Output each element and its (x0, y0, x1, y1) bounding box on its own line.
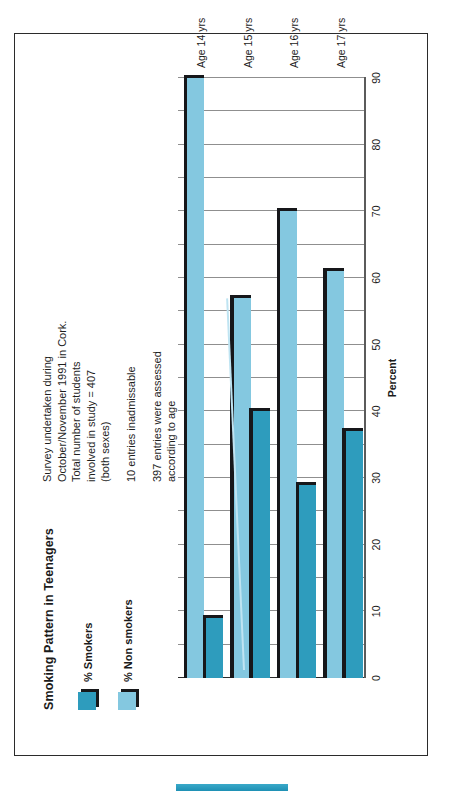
legend-label-smokers: % Smokers (82, 622, 94, 681)
legend-label-non-smokers: % Non smokers (122, 599, 134, 682)
note-paragraph: 397 entries were assessedaccording to ag… (150, 72, 179, 482)
bar-top-edge (277, 211, 281, 678)
note-line: Survey undertaken during (40, 72, 55, 482)
plot-area: Percent 0102030405060708090 (178, 50, 392, 740)
bar-end-edge (342, 428, 363, 431)
legend-swatch-smokers (78, 691, 97, 710)
bar-non-smokers (187, 78, 204, 678)
category-label: Age 15 yrs (242, 17, 254, 67)
bar-end-edge (249, 408, 270, 411)
bar-smokers (299, 484, 316, 677)
note-paragraph: Survey undertaken duringOctober/November… (40, 72, 113, 482)
plot-grid (178, 78, 364, 678)
bar-top-edge (184, 78, 188, 678)
bar-fill (280, 211, 297, 678)
bar-non-smokers (280, 211, 297, 678)
x-tick-label: 30 (370, 472, 382, 484)
x-tick-label: 10 (370, 605, 382, 617)
bar-end-edge (277, 208, 298, 211)
note-line: (both sexes) (98, 72, 113, 482)
x-tick-label: 80 (370, 138, 382, 150)
bar-fill (346, 431, 363, 678)
axis-baseline (364, 77, 366, 678)
note-paragraph: 10 entries inadmissable (124, 72, 139, 482)
note-line: involved in study = 407 (84, 72, 99, 482)
bar-smokers (346, 431, 363, 678)
bar-end-edge (203, 615, 224, 618)
note-line: 397 entries were assessed (150, 72, 165, 482)
x-tick-label: 50 (370, 338, 382, 350)
legend-item-smokers: % Smokers (78, 622, 97, 709)
category-label: Age 16 yrs (288, 17, 300, 67)
legend-swatch-non-smokers (118, 691, 137, 710)
note-line: Total number of students (69, 72, 84, 482)
x-tick-label: 70 (370, 205, 382, 217)
bar-end-edge (323, 268, 344, 271)
figure-title: Smoking Pattern in Teenagers (42, 528, 56, 710)
bar-fill (206, 618, 223, 678)
footer-accent-bar (176, 784, 288, 791)
x-tick-label: 60 (370, 272, 382, 284)
bar-top-edge (342, 431, 346, 678)
bar-end-edge (296, 481, 317, 484)
bar-fill (299, 484, 316, 677)
bar-fill (327, 271, 344, 678)
bar-group (318, 78, 365, 678)
x-tick-label: 90 (370, 72, 382, 84)
axis-title-percent: Percent (386, 78, 398, 678)
bar-top-edge (230, 298, 234, 678)
bar-fill (187, 78, 204, 678)
note-line: October/November 1991 in Cork. (55, 72, 70, 482)
rotated-figure-stage: Smoking Pattern in Teenagers % Smokers %… (26, 50, 416, 740)
bar-group (271, 78, 318, 678)
x-tick-label: 0 (370, 675, 382, 681)
figure-frame: Smoking Pattern in Teenagers % Smokers %… (14, 33, 428, 756)
bar-smokers (253, 411, 270, 678)
bar-top-edge (323, 271, 327, 678)
bar-group (225, 78, 272, 678)
note-line: 10 entries inadmissable (124, 72, 139, 482)
x-tick-label: 40 (370, 405, 382, 417)
bar-non-smokers (327, 271, 344, 678)
bar-end-edge (184, 75, 205, 78)
bar-smokers (206, 618, 223, 678)
bar-top-edge (249, 411, 253, 678)
category-label: Age 14 yrs (195, 17, 207, 67)
figure-notes: Survey undertaken duringOctober/November… (40, 72, 179, 482)
bar-fill (253, 411, 270, 678)
bar-end-edge (230, 295, 251, 298)
legend-item-non-smokers: % Non smokers (118, 599, 137, 710)
note-line: according to age (164, 72, 179, 482)
bar-group (178, 78, 225, 678)
figure-header: Smoking Pattern in Teenagers % Smokers %… (26, 50, 178, 740)
bar-non-smokers (234, 298, 251, 678)
category-label: Age 17 yrs (335, 17, 347, 67)
bar-top-edge (203, 618, 207, 678)
x-tick-label: 20 (370, 538, 382, 550)
bar-top-edge (296, 484, 300, 677)
